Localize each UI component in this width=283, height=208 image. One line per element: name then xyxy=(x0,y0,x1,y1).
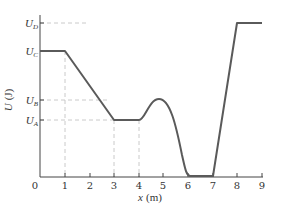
x-tick-0: 0 xyxy=(32,180,38,191)
x-tick-5: 5 xyxy=(160,180,166,191)
x-tick-1: 1 xyxy=(62,180,68,191)
label-ub: UB xyxy=(26,94,39,108)
label-ud: UD xyxy=(25,17,38,31)
potential-energy-chart: 0 1 2 3 4 5 6 7 8 9 x(m) U(J) UD UC UB U… xyxy=(0,0,283,208)
x-tick-3: 3 xyxy=(111,180,117,191)
potential-curve xyxy=(40,23,262,176)
x-tick-4: 4 xyxy=(136,180,142,191)
y-ticks xyxy=(40,23,44,120)
y-level-labels: UD UC UB UA xyxy=(25,17,39,128)
x-ticks xyxy=(65,173,262,177)
x-axis-title: x(m) xyxy=(137,191,162,204)
guide-lines xyxy=(40,23,139,177)
y-axis-title: U(J) xyxy=(2,88,15,111)
x-tick-2: 2 xyxy=(87,180,93,191)
x-tick-8: 8 xyxy=(234,180,240,191)
x-tick-9: 9 xyxy=(259,180,265,191)
x-tick-6: 6 xyxy=(185,180,191,191)
x-tick-7: 7 xyxy=(210,180,216,191)
x-tick-labels: 0 1 2 3 4 5 6 7 8 9 xyxy=(32,180,265,191)
label-uc: UC xyxy=(25,45,38,59)
label-ua: UA xyxy=(26,114,39,128)
